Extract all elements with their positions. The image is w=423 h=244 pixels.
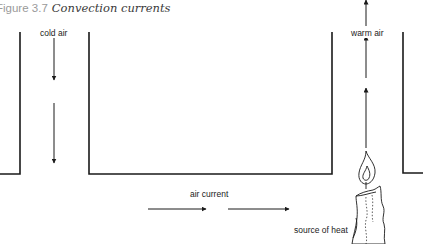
right-chimney-outer-wall (403, 32, 423, 173)
left-chimney-outer-wall (0, 32, 20, 174)
cold-air-label: cold air (40, 29, 67, 38)
warm-air-label: warm air (350, 29, 385, 38)
candle-body (352, 186, 385, 244)
source-of-heat-label: source of heat (294, 226, 348, 235)
convection-diagram: Figure 3.7Convection currents (0, 0, 423, 244)
box-outline (0, 32, 423, 174)
tray-and-inner-walls (89, 32, 332, 174)
air-current-label: air current (190, 190, 228, 199)
candle-icon (352, 151, 385, 244)
